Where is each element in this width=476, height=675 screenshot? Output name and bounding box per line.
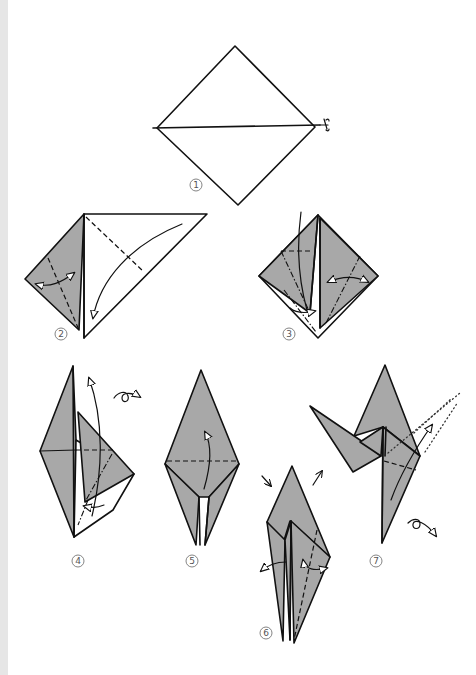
step-number-4: 4: [72, 555, 84, 567]
left-leg: [267, 522, 285, 641]
flap-white: [84, 214, 207, 338]
svg-text:7: 7: [373, 556, 379, 566]
cut-mark-icon: [320, 119, 329, 131]
origami-diagram: 1 2 3: [0, 0, 476, 675]
turn-over-icon: [114, 392, 140, 401]
step-number-6: 6: [260, 627, 272, 639]
svg-text:3: 3: [286, 329, 292, 339]
step-number-3: 3: [283, 328, 295, 340]
svg-text:2: 2: [58, 329, 64, 339]
left-flap: [40, 366, 76, 537]
step-3: 3: [259, 212, 378, 340]
svg-text:1: 1: [193, 180, 199, 190]
step-5: 5: [165, 370, 239, 567]
step-1: 1: [153, 46, 329, 205]
svg-text:4: 4: [75, 556, 81, 566]
push-arrow-right: [313, 471, 322, 485]
svg-text:5: 5: [189, 556, 195, 566]
right-flap: [320, 218, 378, 328]
step-6: 6: [260, 466, 330, 643]
step-7: 7: [310, 365, 460, 567]
step-2: 2: [25, 214, 207, 340]
step-4: 4: [40, 366, 140, 567]
step-number-1: 1: [190, 179, 202, 191]
step-number-2: 2: [55, 328, 67, 340]
turn-over-icon: [408, 519, 436, 536]
svg-text:6: 6: [263, 628, 269, 638]
push-arrow-left: [262, 476, 271, 486]
step-number-7: 7: [370, 555, 382, 567]
flap-colored: [25, 214, 84, 330]
step-number-5: 5: [186, 555, 198, 567]
left-flap: [259, 215, 318, 313]
